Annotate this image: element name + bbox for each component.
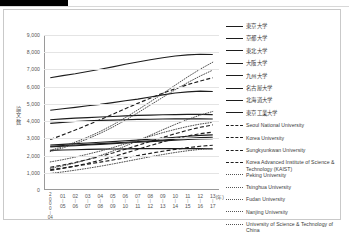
y-tick-label: 8,000: [6, 49, 40, 55]
legend-item-label: 北海道大学: [246, 97, 344, 103]
y-tick-label: 9,000: [6, 32, 40, 38]
legend-item[interactable]: 東京大学: [226, 23, 344, 35]
legend-line-swatch-icon: [226, 75, 243, 78]
y-tick-label: 1,000: [6, 170, 40, 176]
legend-line-swatch-icon: [226, 100, 243, 103]
x-axis-first-label: 2000 | 04: [45, 192, 55, 220]
legend-item-label: University of Science & Technology of Ch…: [246, 221, 344, 226]
y-tick-label: 0: [6, 187, 40, 193]
legend-line-swatch-icon: [226, 88, 243, 91]
gridline: [44, 138, 219, 139]
legend-item[interactable]: Tsinghua University: [226, 184, 344, 196]
gridline: [44, 87, 219, 88]
legend-item[interactable]: 東京工業大学: [226, 110, 344, 122]
series-line: [50, 148, 213, 173]
legend-item-label: 京都大学: [246, 35, 344, 41]
x-axis-tick-labels: 2000 | 04 (年) 01|0502|0603|0704|0805|090…: [44, 192, 229, 226]
legend-item-label: 名古屋大学: [246, 85, 344, 91]
legend-item[interactable]: Fudan University: [226, 196, 344, 208]
y-tick-label: 6,000: [6, 84, 40, 90]
legend-item-label: Peking University: [246, 172, 344, 178]
legend-item-label: Nanjing University: [246, 209, 344, 215]
legend-item-label: 東京大学: [246, 23, 344, 29]
legend-item[interactable]: 名古屋大学: [226, 85, 344, 97]
legend-item-label: 大阪大学: [246, 60, 344, 66]
legend-item[interactable]: Seoul National University: [226, 122, 344, 134]
legend-item-label: Seoul National University: [246, 122, 344, 128]
legend: 東京大学京都大学東北大学大阪大学九州大学名古屋大学北海道大学東京工業大学Seou…: [226, 23, 344, 226]
legend-item[interactable]: 京都大学: [226, 35, 344, 47]
legend-item[interactable]: 北海道大学: [226, 97, 344, 109]
y-axis-tick-labels: 9,0008,0007,0006,0005,0004,0003,0002,000…: [4, 35, 40, 190]
gridline: [44, 52, 219, 53]
series-line: [50, 149, 213, 151]
legend-item-label: 東北大学: [246, 48, 344, 54]
series-lines: [44, 35, 219, 190]
y-tick-label: 5,000: [6, 101, 40, 107]
legend-line-swatch-icon: [226, 63, 243, 66]
legend-line-swatch-icon: [226, 38, 243, 41]
gridline: [44, 104, 219, 105]
legend-line-swatch-icon: [226, 50, 243, 53]
legend-line-swatch-icon: [226, 174, 243, 177]
legend-item[interactable]: 大阪大学: [226, 60, 344, 72]
legend-item-label: Tsinghua University: [246, 184, 344, 190]
y-tick-label: 2,000: [6, 153, 40, 159]
legend-item[interactable]: Korea University: [226, 135, 344, 147]
legend-line-swatch-icon: [226, 26, 243, 29]
legend-item-label: Korea University: [246, 135, 344, 141]
series-line: [50, 91, 213, 110]
legend-item-label: 九州大学: [246, 73, 344, 79]
legend-item[interactable]: 東北大学: [226, 48, 344, 60]
y-tick-label: 3,000: [6, 135, 40, 141]
header-divider: [0, 6, 349, 7]
legend-item[interactable]: University of Science & Technology of Ch…: [226, 221, 344, 226]
legend-line-swatch-icon: [226, 112, 243, 115]
figure-frame: 9,0008,0007,0006,0005,0004,0003,0002,000…: [3, 9, 341, 220]
gridline: [44, 121, 219, 122]
legend-item[interactable]: Nanjing University: [226, 209, 344, 221]
legend-line-swatch-icon: [226, 187, 243, 190]
x-tick-group: 13|17: [205, 193, 221, 209]
gridline: [44, 35, 219, 36]
legend-line-swatch-icon: [226, 162, 243, 165]
legend-item[interactable]: Korea Advanced Institute of Science & Te…: [226, 159, 344, 171]
legend-item-label: Korea Advanced Institute of Science & Te…: [246, 159, 344, 171]
y-tick-label: 7,000: [6, 66, 40, 72]
x-tick-bottom: 17: [205, 203, 221, 209]
y-axis-title: 論文数: [15, 106, 22, 125]
legend-line-swatch-icon: [226, 199, 243, 202]
gridline: [44, 173, 219, 174]
y-tick-label: 4,000: [6, 118, 40, 124]
x-first-bottom: 04: [45, 215, 55, 220]
legend-line-swatch-icon: [226, 224, 243, 226]
legend-item-label: Fudan University: [246, 196, 344, 202]
gridline: [44, 156, 219, 157]
legend-line-swatch-icon: [226, 137, 243, 140]
plot-area: [44, 35, 219, 190]
series-line: [50, 54, 213, 77]
legend-item[interactable]: Sungkyunkwan University: [226, 147, 344, 159]
gridline: [44, 69, 219, 70]
legend-line-swatch-icon: [226, 211, 243, 214]
legend-line-swatch-icon: [226, 150, 243, 153]
x-first-top: 2000: [48, 192, 53, 210]
legend-line-swatch-icon: [226, 125, 243, 128]
legend-item[interactable]: Peking University: [226, 172, 344, 184]
legend-item[interactable]: 九州大学: [226, 73, 344, 85]
legend-item-label: 東京工業大学: [246, 110, 344, 116]
legend-item-label: Sungkyunkwan University: [246, 147, 344, 153]
